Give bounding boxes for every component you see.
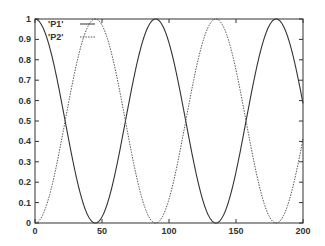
x-tick-label: 200 <box>295 226 310 236</box>
legend-label-p2: 'P2' <box>48 32 63 42</box>
y-tick-label: 0.3 <box>18 157 31 167</box>
y-tick-label: 0.9 <box>18 34 31 44</box>
y-tick-label: 0.5 <box>18 116 31 126</box>
y-tick-label: 0.8 <box>18 55 31 65</box>
x-tick-label: 50 <box>97 226 107 236</box>
y-tick-label: 0 <box>26 218 31 228</box>
y-tick-label: 0.1 <box>18 198 31 208</box>
y-tick-label: 0.6 <box>18 96 31 106</box>
y-tick-label: 0.7 <box>18 75 31 85</box>
x-tick-label: 150 <box>228 226 243 236</box>
line-chart: 00.10.20.30.40.50.60.70.80.91 0501001502… <box>0 0 325 246</box>
x-tick-label: 0 <box>32 226 37 236</box>
x-tick-label: 100 <box>161 226 176 236</box>
y-tick-label: 0.2 <box>18 177 31 187</box>
legend-label-p1: 'P1' <box>48 19 63 29</box>
y-tick-label: 1 <box>26 14 31 24</box>
y-tick-label: 0.4 <box>18 136 31 146</box>
